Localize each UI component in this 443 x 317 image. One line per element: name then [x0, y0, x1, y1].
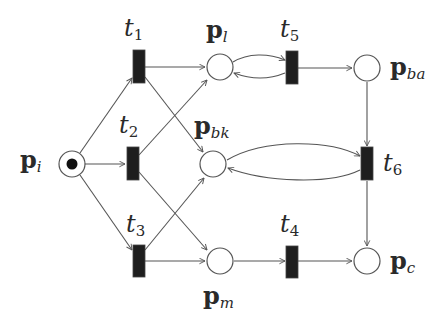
arc-pbk-t6 — [227, 144, 360, 160]
petri-net-diagram — [0, 0, 443, 317]
transition-t1 — [133, 50, 145, 83]
label-t5: t5 — [280, 17, 299, 44]
arc-t2-pm — [139, 172, 207, 250]
label-t4: t4 — [280, 212, 299, 239]
label-p-l: pl — [206, 18, 228, 45]
label-p-c: pc — [390, 249, 415, 276]
label-p-m: pm — [203, 284, 234, 311]
place-p-l — [207, 54, 233, 80]
place-p-bk — [200, 151, 226, 177]
arc-t6-pbk — [228, 168, 360, 180]
place-p-ba — [354, 55, 380, 81]
transition-t5 — [286, 51, 298, 84]
token — [67, 159, 78, 170]
transition-t2 — [127, 147, 139, 180]
transition-t4 — [286, 246, 298, 278]
label-t6: t6 — [383, 151, 402, 178]
transition-t3 — [133, 245, 145, 277]
label-t2: t2 — [119, 113, 138, 140]
label-t1: t1 — [124, 16, 143, 43]
place-p-m — [207, 248, 233, 274]
arc-t5-pl — [234, 73, 285, 78]
label-p-i: pi — [20, 148, 42, 175]
label-p-ba: pba — [390, 55, 425, 82]
arc-pl-t5 — [233, 55, 285, 62]
arc-pi-t3 — [80, 175, 132, 250]
label-p-bk: pbk — [194, 114, 229, 141]
place-p-c — [354, 248, 380, 274]
transition-t6 — [361, 147, 373, 180]
label-t3: t3 — [126, 212, 145, 239]
